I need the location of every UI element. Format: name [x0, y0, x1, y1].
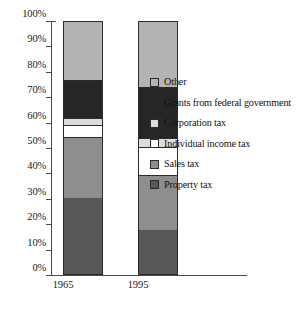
legend-item: Sales tax — [150, 158, 305, 170]
bar-segment — [139, 230, 177, 274]
x-axis-label-1965: 1965 — [33, 279, 93, 290]
legend-item-label: Individual income tax — [164, 138, 250, 150]
y-axis-tick-label: 100% — [2, 8, 46, 20]
x-axis-label-1995: 1995 — [108, 279, 168, 290]
bar-segment — [64, 125, 102, 136]
legend-item-label: Property tax — [164, 179, 212, 191]
legend-item: Property tax — [150, 179, 305, 191]
legend-swatch-icon — [150, 78, 159, 87]
legend-swatch-icon — [150, 98, 159, 107]
stacked-bar-chart: 100%90%80%70%60%50%40%30%20%10%0% 1965 1… — [0, 0, 305, 312]
legend-swatch-icon — [150, 139, 159, 148]
bar-segment — [64, 80, 102, 118]
bar-segment — [64, 198, 102, 274]
y-axis: 100%90%80%70%60%50%40%30%20%10%0% — [0, 14, 46, 278]
legend-item: Corporation tax — [150, 117, 305, 129]
chart-legend: OtherGrants from federal governmentCorpo… — [150, 76, 305, 200]
y-axis-tick-label: 50% — [2, 135, 46, 147]
bar-segment — [64, 118, 102, 126]
y-axis-tick-label: 0% — [2, 262, 46, 274]
legend-item: Other — [150, 76, 305, 88]
legend-item: Individual income tax — [150, 138, 305, 150]
y-axis-tick-label: 10% — [2, 237, 46, 249]
bar-segment — [64, 21, 102, 80]
y-axis-tick-label: 20% — [2, 211, 46, 223]
legend-swatch-icon — [150, 119, 159, 128]
y-axis-tick-label: 60% — [2, 110, 46, 122]
legend-item-label: Sales tax — [164, 158, 199, 170]
y-axis-tick-label: 90% — [2, 33, 46, 45]
legend-item: Grants from federal government — [150, 97, 305, 109]
y-axis-tick-label: 40% — [2, 160, 46, 172]
legend-item-label: Corporation tax — [164, 117, 226, 129]
y-axis-tick-label: 70% — [2, 84, 46, 96]
legend-item-label: Other — [164, 76, 186, 88]
legend-swatch-icon — [150, 180, 159, 189]
y-axis-tick-label: 30% — [2, 186, 46, 198]
x-axis-line — [51, 275, 247, 276]
bar-1965 — [63, 21, 103, 275]
bar-segment — [64, 137, 102, 198]
y-axis-tick-label: 80% — [2, 59, 46, 71]
legend-swatch-icon — [150, 160, 159, 169]
legend-item-label: Grants from federal government — [164, 97, 291, 109]
